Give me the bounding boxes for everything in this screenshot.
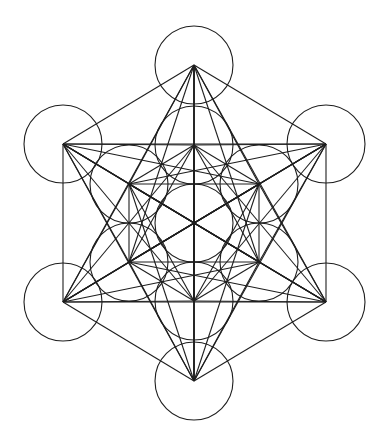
connecting-lines [63, 65, 326, 381]
metatrons-cube-figure: Metatron's Cube [0, 0, 388, 448]
line-outer-lower-right-to-outer-bottom [194, 302, 326, 381]
line-outer-top-to-outer-upper-left [63, 65, 194, 144]
line-outer-top-to-outer-upper-right [194, 65, 326, 144]
geometry-diagram [0, 0, 388, 448]
line-outer-bottom-to-outer-lower-left [63, 302, 194, 381]
